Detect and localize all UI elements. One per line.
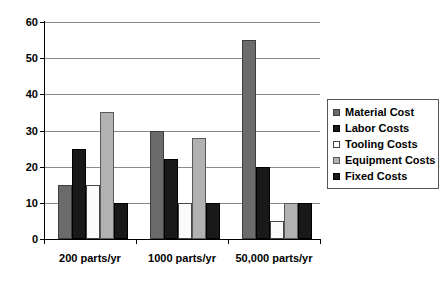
legend-label-fixed-costs: Fixed Costs [345, 171, 407, 182]
y-tick-label-0: 0 [4, 234, 38, 245]
x-tick-mark-0 [44, 239, 45, 244]
y-axis-labels: 60 50 40 30 20 10 0 [0, 0, 38, 286]
bar-material-cost-50000 [242, 40, 256, 239]
bar-chart: 60 50 40 30 20 10 0 [0, 0, 446, 286]
y-tick-label-30: 30 [4, 125, 38, 136]
legend-swatch-material-cost-icon [333, 109, 340, 116]
x-tick-label-1000: 1000 parts/yr [136, 252, 228, 264]
bar-fixed-costs-200 [114, 203, 128, 239]
x-axis-line [44, 239, 321, 240]
legend-item-tooling-costs: Tooling Costs [331, 136, 434, 152]
legend-item-equipment-costs: Equipment Costs [331, 152, 434, 168]
bar-labor-costs-200 [72, 149, 86, 239]
x-tick-label-200: 200 parts/yr [44, 252, 136, 264]
y-tick-label-60: 60 [4, 17, 38, 28]
legend: Material Cost Labor Costs Tooling Costs … [327, 99, 439, 189]
bar-equipment-costs-1000 [192, 138, 206, 239]
bar-material-cost-200 [58, 185, 72, 239]
legend-item-fixed-costs: Fixed Costs [331, 168, 434, 184]
y-tick-label-50: 50 [4, 53, 38, 64]
legend-label-equipment-costs: Equipment Costs [345, 155, 435, 166]
bar-equipment-costs-200 [100, 112, 114, 239]
bar-tooling-costs-200 [86, 185, 100, 239]
legend-swatch-labor-costs-icon [333, 125, 340, 132]
legend-label-tooling-costs: Tooling Costs [345, 139, 418, 150]
y-tick-label-10: 10 [4, 197, 38, 208]
x-tick-mark-2 [228, 239, 229, 244]
bar-fixed-costs-50000 [298, 203, 312, 239]
x-tick-mark-1 [136, 239, 137, 244]
x-tick-mark-3 [320, 239, 321, 244]
bar-labor-costs-50000 [256, 167, 270, 239]
plot-area [44, 22, 320, 239]
legend-label-labor-costs: Labor Costs [345, 123, 409, 134]
y-axis-line [44, 21, 45, 240]
x-tick-label-50000: 50,000 parts/yr [226, 252, 322, 264]
legend-swatch-tooling-costs-icon [333, 141, 340, 148]
bar-equipment-costs-50000 [284, 203, 298, 239]
y-tick-label-20: 20 [4, 161, 38, 172]
bar-material-cost-1000 [150, 131, 164, 240]
bar-tooling-costs-1000 [178, 203, 192, 239]
legend-swatch-equipment-costs-icon [333, 157, 340, 164]
y-tick-label-40: 40 [4, 89, 38, 100]
legend-swatch-fixed-costs-icon [333, 173, 340, 180]
legend-item-material-cost: Material Cost [331, 104, 434, 120]
bars-layer [44, 22, 320, 239]
bar-fixed-costs-1000 [206, 203, 220, 239]
legend-item-labor-costs: Labor Costs [331, 120, 434, 136]
bar-tooling-costs-50000 [270, 221, 284, 239]
legend-label-material-cost: Material Cost [345, 107, 414, 118]
bar-labor-costs-1000 [164, 159, 178, 239]
